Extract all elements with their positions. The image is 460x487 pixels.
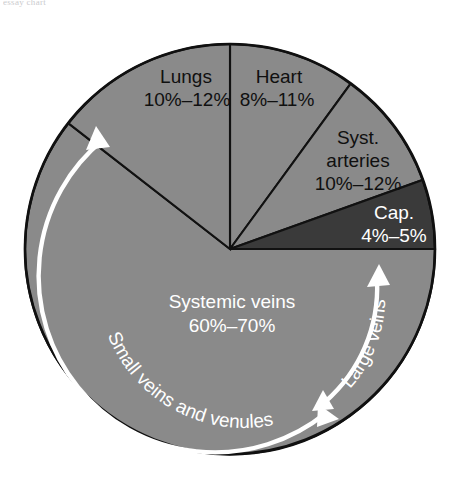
label-capillaries-value: 4%–5% xyxy=(361,225,427,246)
label-systemic-veins-name: Systemic veins xyxy=(169,291,296,312)
label-systemic-veins-value: 60%–70% xyxy=(189,315,276,336)
label-lungs-value: 10%–12% xyxy=(144,89,231,110)
blood-volume-pie-chart: Small veins and venules Large veins Lung… xyxy=(0,0,460,487)
label-heart-name: Heart xyxy=(256,66,303,87)
label-heart-value: 8%–11% xyxy=(240,89,315,110)
label-lungs-name: Lungs xyxy=(160,66,212,87)
label-systemic-arteries-name-line2: arteries xyxy=(326,150,389,171)
pie-chart-figure: essay chart xyxy=(0,0,460,487)
label-systemic-arteries-value: 10%–12% xyxy=(315,173,402,194)
label-systemic-arteries-name-line1: Syst. xyxy=(337,127,379,148)
label-capillaries-name: Cap. xyxy=(374,202,414,223)
